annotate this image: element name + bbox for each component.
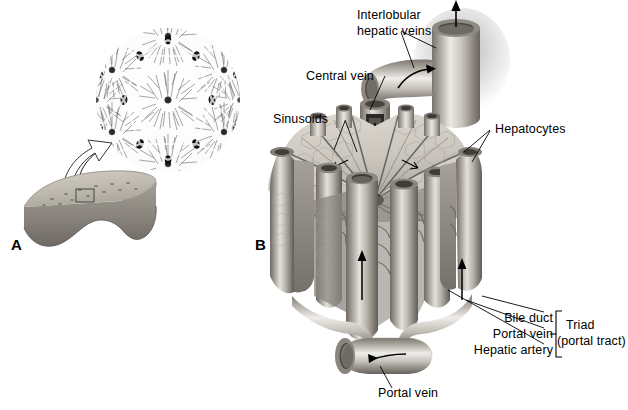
label-sinusoids: Sinusoids <box>273 112 328 127</box>
histology-circle-inset <box>67 6 269 194</box>
label-portal-vein-triad: Portal vein <box>430 327 553 342</box>
liver-organ-illustration <box>24 171 157 246</box>
liver-anatomy-figure: A <box>0 0 628 410</box>
label-portal-tract: (portal tract) <box>557 334 626 349</box>
label-bile-duct: Bile duct <box>430 311 553 326</box>
label-hepatocytes: Hepatocytes <box>495 122 566 137</box>
panel-letter-a: A <box>11 236 22 253</box>
panel-letter-b: B <box>255 236 266 253</box>
label-interlobular-hepatic-veins-line1: Interlobular <box>357 8 421 23</box>
label-interlobular-hepatic-veins-line2: hepatic veins <box>357 24 431 39</box>
label-portal-vein-bottom: Portal vein <box>378 386 438 401</box>
label-triad: Triad <box>566 318 595 333</box>
label-central-vein: Central vein <box>306 69 374 84</box>
label-hepatic-artery: Hepatic artery <box>430 343 553 358</box>
